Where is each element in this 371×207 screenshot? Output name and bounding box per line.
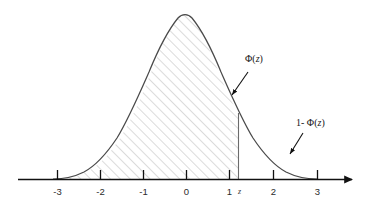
- shaded-area-phi-z: [59, 15, 238, 179]
- tick-label-1: 1: [227, 186, 232, 197]
- normal-distribution-figure: -3 -2 -1 0 1 2 3 z Φ(z) 1- Φ(z): [0, 0, 371, 207]
- one-minus-phi-z-leader-line: [290, 133, 303, 154]
- tick-label-2: 2: [271, 186, 276, 197]
- tick-label-0: 0: [184, 186, 189, 197]
- phi-z-leader-line: [232, 72, 248, 95]
- tick-label-neg2: -2: [96, 186, 104, 197]
- one-minus-phi-z-annotation-label: 1- Φ(z): [296, 117, 325, 129]
- one-minus-phi-symbol: Φ: [307, 117, 314, 128]
- normal-curve-chart: -3 -2 -1 0 1 2 3 z Φ(z) 1- Φ(z): [0, 0, 371, 207]
- tick-label-neg1: -1: [139, 186, 147, 197]
- phi-z-symbol: Φ: [245, 53, 252, 64]
- phi-z-annotation-label: Φ(z): [245, 53, 263, 65]
- tick-label-3: 3: [315, 186, 320, 197]
- z-marker-label: z: [237, 187, 242, 196]
- tick-label-neg3: -3: [53, 186, 61, 197]
- one-minus-prefix: 1-: [296, 117, 307, 128]
